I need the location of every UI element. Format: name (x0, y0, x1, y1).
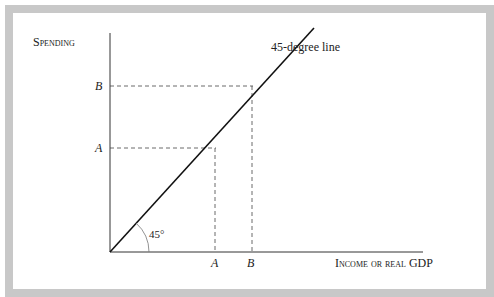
angle-label: 45° (149, 228, 164, 240)
y-axis-label: Spending (33, 35, 75, 50)
x-axis-label: Income or real GDP (335, 256, 433, 271)
x-tick-b: B (247, 256, 254, 271)
forty-five-degree-line (110, 28, 314, 252)
x-tick-a: A (211, 256, 218, 271)
line-label: 45-degree line (271, 40, 340, 55)
y-tick-a: A (95, 141, 102, 156)
angle-arc (136, 223, 149, 252)
y-tick-b: B (95, 79, 102, 94)
